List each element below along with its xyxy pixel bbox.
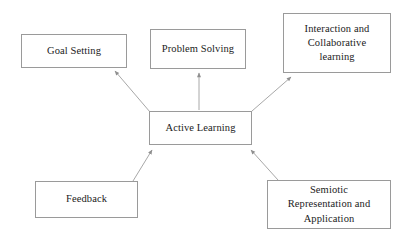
connector-semiotic-to-active	[251, 150, 278, 180]
connector-active-to-interaction	[252, 77, 291, 111]
connector-active-to-goal-setting	[115, 71, 150, 112]
node-problem-solving-label: Problem Solving	[151, 42, 245, 56]
node-semiotic-representation-application[interactable]: Semiotic Representation and Application	[267, 180, 391, 229]
node-interaction-collaborative-learning-label: Interaction and Collaborative learning	[284, 22, 390, 65]
node-semiotic-representation-application-label: Semiotic Representation and Application	[268, 183, 390, 226]
node-active-learning[interactable]: Active Learning	[149, 111, 252, 145]
node-goal-setting-label: Goal Setting	[22, 44, 126, 58]
node-feedback-label: Feedback	[36, 192, 137, 206]
node-interaction-collaborative-learning[interactable]: Interaction and Collaborative learning	[283, 13, 391, 73]
node-problem-solving[interactable]: Problem Solving	[150, 29, 246, 69]
node-active-learning-label: Active Learning	[150, 121, 251, 135]
node-goal-setting[interactable]: Goal Setting	[21, 34, 127, 68]
node-feedback[interactable]: Feedback	[35, 181, 138, 218]
connector-feedback-to-active	[133, 150, 152, 181]
concept-diagram: Goal Setting Problem Solving Interaction…	[0, 0, 405, 236]
